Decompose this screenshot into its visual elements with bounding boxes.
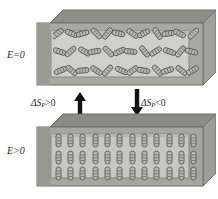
molecule: [185, 63, 199, 76]
molecule-body: [117, 151, 122, 164]
molecule: [190, 166, 197, 181]
molecule: [166, 150, 173, 165]
slab2-right-face: [203, 114, 216, 186]
molecule: [116, 150, 123, 165]
slab-left-bevel: [37, 23, 50, 85]
molecule: [116, 133, 123, 148]
slab2-left-bevel: [37, 127, 50, 186]
molecule: [153, 150, 160, 165]
molecule: [111, 28, 127, 38]
molecule: [129, 133, 136, 148]
molecule: [171, 26, 188, 39]
molecule-body: [93, 134, 98, 147]
molecule-body: [117, 134, 122, 147]
slab-right-face: [203, 10, 216, 85]
molecule: [141, 133, 148, 148]
molecule-body: [56, 134, 61, 147]
molecule-body: [179, 134, 184, 147]
molecule: [190, 150, 197, 165]
molecule: [55, 166, 62, 181]
molecule-body: [191, 151, 196, 164]
molecule: [166, 133, 173, 148]
molecule-body: [167, 134, 172, 147]
entropy-increase-symbol: ΔS: [31, 98, 41, 108]
molecule-body: [56, 151, 61, 164]
entropy-increase-operator: >0: [45, 98, 55, 108]
molecule-body: [173, 28, 187, 38]
label-entropy-decrease: ΔSP<0: [141, 99, 165, 109]
molecule: [178, 150, 185, 165]
molecule-body: [154, 151, 159, 164]
molecule: [67, 166, 74, 181]
molecule-body: [68, 134, 73, 147]
molecule: [79, 133, 86, 148]
molecule-body: [68, 151, 73, 164]
molecule-body: [80, 134, 85, 147]
molecule-body: [105, 151, 110, 164]
molecule: [92, 166, 99, 181]
molecule: [129, 166, 136, 181]
molecule-body: [161, 66, 175, 75]
molecule-body: [142, 134, 147, 147]
molecule: [79, 166, 86, 181]
molecule: [166, 166, 173, 181]
molecule: [62, 44, 78, 59]
molecule: [92, 133, 99, 148]
molecule: [190, 133, 197, 148]
entropy-decrease-operator: <0: [155, 98, 165, 108]
molecule-body: [64, 45, 77, 57]
molecule: [184, 46, 199, 56]
molecule: [153, 166, 160, 181]
figure-canvas: E=0 E>0 ΔSP>0 ΔSP<0: [0, 0, 218, 199]
molecule: [104, 150, 111, 165]
molecule: [129, 150, 136, 165]
molecule-body: [142, 151, 147, 164]
molecule: [123, 47, 139, 56]
molecule-body: [191, 134, 196, 147]
entropy-decrease-symbol: ΔS: [141, 98, 151, 108]
label-field-off: E=0: [7, 50, 25, 60]
molecule: [178, 133, 185, 148]
molecule-body: [130, 151, 135, 164]
molecule-body: [75, 67, 88, 73]
molecule: [74, 66, 90, 75]
molecule-body: [179, 151, 184, 164]
molecule: [153, 133, 160, 148]
molecule: [141, 150, 148, 165]
molecule: [55, 133, 62, 148]
molecule-body: [154, 134, 159, 147]
molecule: [141, 166, 148, 181]
slab2-top-face: [50, 114, 216, 127]
molecule: [55, 150, 62, 165]
molecule-body: [105, 134, 110, 147]
label-field-on: E>0: [7, 146, 25, 156]
molecule: [79, 150, 86, 165]
molecule: [186, 25, 199, 41]
molecule: [104, 133, 111, 148]
molecule-body: [136, 66, 150, 73]
molecule: [67, 133, 74, 148]
slab-top-face: [50, 10, 216, 23]
label-entropy-increase: ΔSP>0: [31, 99, 55, 109]
molecule-body: [130, 134, 135, 147]
molecule: [92, 150, 99, 165]
molecule: [116, 166, 123, 181]
molecule: [67, 150, 74, 165]
molecule-body: [80, 151, 85, 164]
molecule-field-disordered: [53, 25, 199, 79]
molecule-body: [167, 151, 172, 164]
molecule-field-ordered: [52, 132, 200, 182]
molecule: [104, 166, 111, 181]
molecule-body: [93, 151, 98, 164]
molecule: [178, 166, 185, 181]
